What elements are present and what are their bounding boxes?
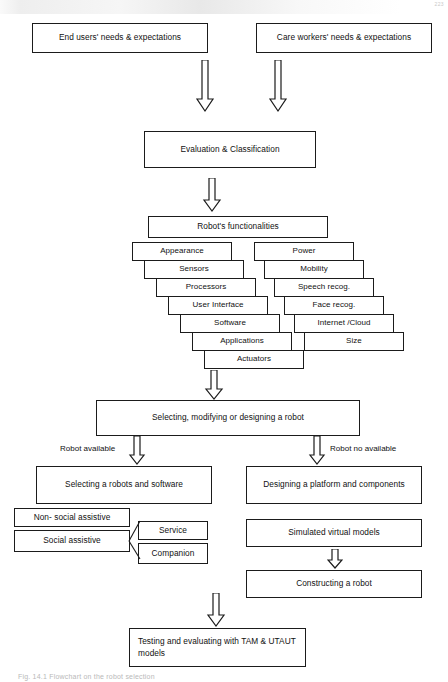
node-social-assistive: Social assistive <box>14 530 130 552</box>
edge-label-robot-available: Robot available <box>60 444 115 453</box>
node-testing-evaluating: Testing and evaluating with TAM & UTAUT … <box>129 628 306 667</box>
node-robot-functionalities: Robot's functionalities <box>148 216 328 238</box>
node-service: Service <box>138 521 208 540</box>
node-care-workers-needs: Care workers' needs & expectations <box>256 23 432 53</box>
flowchart-page: 223 End users' needs & expectations Care… <box>0 0 448 682</box>
cascade-left-item-user-interface: User Interface <box>168 296 268 315</box>
arrow-end-users-to-evaluation <box>195 60 215 113</box>
cascade-left-item-applications: Applications <box>192 332 292 351</box>
cascade-right-item-size: Size <box>304 332 404 351</box>
node-end-users-needs: End users' needs & expectations <box>32 23 208 53</box>
edge-label-robot-no-available: Robot no available <box>330 444 396 453</box>
cascade-right-item-mobility: Mobility <box>264 260 364 279</box>
connector-social-assistive-branch <box>128 518 142 566</box>
node-companion: Companion <box>138 543 208 564</box>
arrow-simulated-to-constructing <box>327 549 343 569</box>
arrow-care-workers-to-evaluation <box>268 60 288 113</box>
node-evaluation-classification: Evaluation & Classification <box>144 131 316 168</box>
arrow-selecting-to-left-branch <box>128 436 146 465</box>
cascade-left-item-appearance: Appearance <box>132 242 232 261</box>
node-constructing-a-robot: Constructing a robot <box>246 570 422 598</box>
node-selecting-robots-software: Selecting a robots and software <box>36 466 212 504</box>
cascade-left-item-software: Software <box>180 314 280 333</box>
node-non-social-assistive: Non- social assistive <box>14 508 130 527</box>
cascade-right-item-face-recog: Face recog. <box>284 296 384 315</box>
cascade-left-item-sensors: Sensors <box>144 260 244 279</box>
node-designing-platform-components: Designing a platform and components <box>246 466 422 504</box>
scan-header-smudge <box>0 0 448 14</box>
node-simulated-virtual-models: Simulated virtual models <box>246 519 422 547</box>
figure-caption: Fig. 14.1 Flowchart on the robot selecti… <box>18 673 155 680</box>
arrow-selecting-to-right-branch <box>308 436 326 465</box>
arrow-evaluation-to-functionalities <box>202 178 222 212</box>
cascade-left-item-actuators: Actuators <box>204 350 304 369</box>
cascade-right-item-power: Power <box>254 242 354 261</box>
cascade-left-item-processors: Processors <box>156 278 256 297</box>
page-number: 223 <box>434 1 444 7</box>
arrow-to-testing <box>206 593 226 627</box>
node-selecting-modifying-designing: Selecting, modifying or designing a robo… <box>96 400 360 436</box>
arrow-functionalities-to-selecting <box>204 370 224 400</box>
cascade-right-item-internet-cloud: Internet /Cloud <box>294 314 394 333</box>
cascade-right-item-speech-recog: Speech recog. <box>274 278 374 297</box>
